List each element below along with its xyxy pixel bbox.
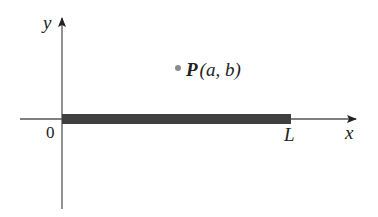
point-p-label: P(a, b) <box>185 59 241 81</box>
coordinate-diagram: y x 0 L P(a, b) <box>0 0 378 217</box>
rod-segment <box>62 114 291 124</box>
y-axis-label: y <box>41 12 52 33</box>
origin-label: 0 <box>46 123 55 142</box>
point-p-coords: (a, b) <box>200 59 241 81</box>
point-p-dot <box>175 65 181 71</box>
point-p-name: P <box>185 59 198 80</box>
rod-end-label: L <box>283 124 295 145</box>
x-axis-label: x <box>344 122 354 143</box>
